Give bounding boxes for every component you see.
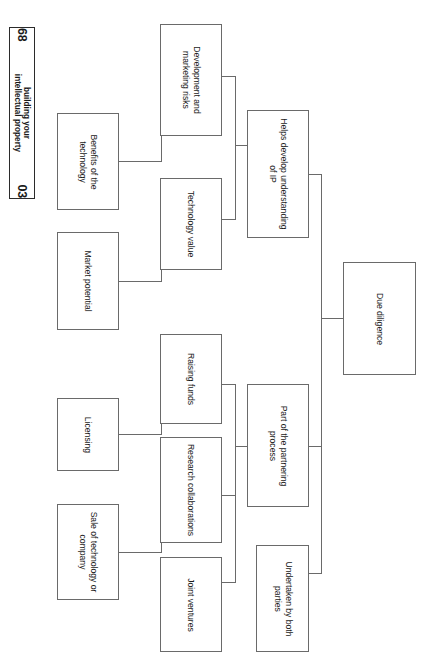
connector-root-to-undertaken	[309, 573, 322, 574]
connector-partnering-to-joint	[222, 582, 236, 583]
node-label: Raising funds	[186, 338, 197, 420]
connector-devrisks-to-benefits	[119, 161, 162, 162]
node-label: Part of the partnering process	[267, 390, 288, 502]
node-licensing[interactable]: Licensing	[57, 398, 119, 471]
connector-helps-to-techvalue	[222, 219, 236, 220]
node-helps-develop[interactable]: Helps develop understanding of IP	[247, 110, 309, 238]
node-research-collaborations[interactable]: Research collaborations	[160, 437, 222, 543]
connector-helps-spine	[235, 76, 236, 220]
node-label: Benefits of the technology	[77, 118, 98, 206]
connector-raising-to-licensing	[119, 434, 162, 435]
running-head-inner: 68 building your intellectual property 0…	[10, 28, 34, 198]
connector-techvalue-to-market	[119, 281, 162, 282]
running-head-block: 68 building your intellectual property 0…	[9, 27, 35, 199]
node-label: Research collaborations	[186, 441, 197, 539]
connector-partnering-to-research	[222, 495, 236, 496]
node-label: Market potential	[83, 235, 94, 327]
node-due-diligence[interactable]: Due diligence	[343, 262, 416, 375]
book-section-title: building your intellectual property	[13, 65, 31, 161]
page-canvas: 68 building your intellectual property 0…	[0, 0, 428, 662]
node-market-potential[interactable]: Market potential	[57, 232, 119, 330]
node-label: Undertaken by both parties	[272, 549, 293, 649]
node-development-and-marketing-risks[interactable]: Development and marketing risks	[160, 24, 222, 136]
node-label: Licensing	[83, 402, 94, 468]
node-label: Helps develop understanding of IP	[267, 115, 288, 233]
connector-research-to-sale	[119, 552, 162, 553]
chapter-number: 03	[16, 184, 29, 198]
node-partnering-process[interactable]: Part of the partnering process	[247, 384, 309, 507]
connector-root-to-partnering	[309, 446, 322, 447]
connector-partnering-spine	[235, 384, 236, 582]
node-label: Development and marketing risks	[180, 28, 201, 132]
connector-root-to-helps	[309, 174, 322, 175]
node-benefits-of-the-technology[interactable]: Benefits of the technology	[57, 113, 119, 210]
node-technology-value[interactable]: Technology value	[160, 178, 222, 270]
node-label: Technology value	[186, 182, 197, 266]
node-sale-of-technology-or-company[interactable]: Sale of technology or company	[57, 504, 119, 600]
node-undertaken-by-both-parties[interactable]: Undertaken by both parties	[256, 545, 309, 652]
node-raising-funds[interactable]: Raising funds	[160, 334, 222, 424]
connector-root-stem	[321, 318, 343, 319]
page-number: 68	[16, 28, 29, 42]
node-label: Due diligence	[374, 269, 385, 369]
node-joint-ventures[interactable]: Joint ventures	[160, 557, 222, 652]
node-label: Joint ventures	[186, 562, 197, 648]
connector-root-spine	[321, 174, 322, 573]
connector-helps-to-devrisks	[222, 76, 236, 77]
node-label: Sale of technology or company	[77, 508, 98, 596]
connector-partnering-to-raising	[222, 384, 236, 385]
